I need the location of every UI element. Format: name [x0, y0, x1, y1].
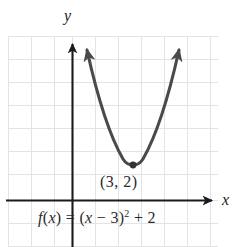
equation-arg: x	[48, 209, 55, 226]
equation-inner-var: x	[85, 209, 92, 226]
function-equation-label: f(x) = (x − 3)2 + 2	[38, 210, 156, 226]
equation-exponent: 2	[124, 208, 129, 219]
equation-h-value: 3	[110, 209, 118, 226]
equation-arg-close: )	[56, 209, 62, 226]
y-axis-label: y	[64, 8, 71, 24]
x-axis-label: x	[222, 192, 229, 208]
equation-k-value: 2	[148, 209, 156, 226]
parabola-curve	[87, 50, 179, 165]
graph-figure: y x (3, 2) f(x) = (x − 3)2 + 2	[0, 0, 237, 247]
equation-plus: +	[134, 209, 143, 226]
vertex-point-marker	[130, 162, 137, 169]
equation-equals: =	[66, 209, 75, 226]
vertex-coordinate-label: (3, 2)	[100, 174, 138, 190]
equation-minus: −	[97, 209, 106, 226]
